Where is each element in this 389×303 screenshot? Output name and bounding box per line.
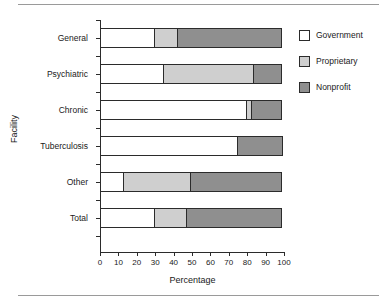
category-label: Total xyxy=(0,213,88,223)
bar-segment-nonprofit xyxy=(177,28,282,48)
x-axis-tick-label: 100 xyxy=(269,258,299,268)
bar-segment-nonprofit xyxy=(186,208,282,228)
bar-segment-government xyxy=(100,208,155,228)
category-label: Psychiatric xyxy=(0,69,88,79)
bar-segment-proprietary xyxy=(154,28,178,48)
legend-item: Proprietary xyxy=(299,48,363,74)
x-axis-tick xyxy=(155,252,156,256)
x-axis-tick xyxy=(210,252,211,256)
y-axis-band-tick xyxy=(96,56,100,57)
y-axis-band-tick xyxy=(96,92,100,93)
bar-segment-government xyxy=(100,64,164,84)
stacked-bar xyxy=(100,208,282,228)
x-axis-tick xyxy=(118,252,119,256)
y-axis-band-tick xyxy=(96,128,100,129)
x-axis-tick xyxy=(247,252,248,256)
legend-swatch-government xyxy=(299,30,310,41)
stacked-bar xyxy=(100,28,282,48)
bar-row: Total xyxy=(0,200,389,236)
bar-row: Other xyxy=(0,164,389,200)
category-label: Tuberculosis xyxy=(0,141,88,151)
bar-row: Tuberculosis xyxy=(0,128,389,164)
bar-segment-nonprofit xyxy=(251,100,282,120)
stacked-bar xyxy=(100,172,282,192)
legend-swatch-nonprofit xyxy=(299,82,310,93)
bar-segment-government xyxy=(100,172,124,192)
x-axis-tick xyxy=(266,252,267,256)
bar-segment-government xyxy=(100,28,155,48)
category-label: Chronic xyxy=(0,105,88,115)
category-label: Other xyxy=(0,177,88,187)
x-axis-title: Percentage xyxy=(100,275,285,285)
legend-label: Proprietary xyxy=(316,56,358,66)
stacked-bar xyxy=(100,100,282,120)
stacked-bar-chart: Facility Percentage GeneralPsychiatricCh… xyxy=(0,0,389,303)
category-label: General xyxy=(0,33,88,43)
stacked-bar xyxy=(100,136,283,156)
legend-swatch-proprietary xyxy=(299,56,310,67)
bar-segment-government xyxy=(100,136,238,156)
y-axis-band-tick xyxy=(96,164,100,165)
bar-segment-nonprofit xyxy=(253,64,282,84)
x-axis-tick xyxy=(100,252,101,256)
bar-segment-proprietary xyxy=(154,208,187,228)
legend-label: Nonprofit xyxy=(316,82,351,92)
y-axis-band-tick xyxy=(96,200,100,201)
legend-item: Nonprofit xyxy=(299,74,363,100)
legend-label: Government xyxy=(316,30,363,40)
bar-segment-nonprofit xyxy=(190,172,282,192)
y-axis-band-tick xyxy=(96,236,100,237)
x-axis-tick xyxy=(174,252,175,256)
bar-segment-nonprofit xyxy=(237,136,283,156)
legend-item: Government xyxy=(299,22,363,48)
x-axis-tick xyxy=(137,252,138,256)
bar-segment-proprietary xyxy=(123,172,191,192)
bar-segment-proprietary xyxy=(163,64,253,84)
x-axis-tick xyxy=(284,252,285,256)
stacked-bar xyxy=(100,64,282,84)
chart-legend: GovernmentProprietaryNonprofit xyxy=(299,22,363,100)
y-axis-band-tick xyxy=(96,20,100,21)
x-axis-tick xyxy=(229,252,230,256)
x-axis-tick xyxy=(192,252,193,256)
bar-segment-government xyxy=(100,100,247,120)
